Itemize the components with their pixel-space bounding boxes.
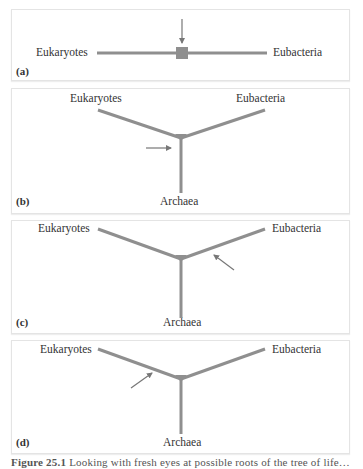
tree-b [98,110,265,193]
figure-caption: Figure 25.1 Looking with fresh eyes at p… [11,456,350,468]
figure-caption-text: Looking with fresh eyes at possible root… [69,456,350,468]
tree-a [97,19,267,59]
arrow-up-left-icon [214,255,234,270]
tree-d [98,349,265,434]
tree-diagrams [0,0,363,469]
root-square-icon [176,47,188,59]
arrow-up-right-icon [131,373,152,388]
tree-c [98,229,265,318]
figure-number: Figure 25.1 [11,456,66,468]
